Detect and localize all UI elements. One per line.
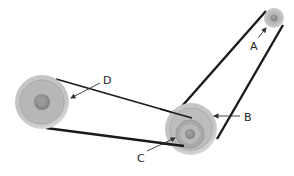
label-c: C <box>137 152 145 165</box>
arrow-a <box>258 28 266 38</box>
label-a: A <box>250 40 258 53</box>
label-d: D <box>103 74 111 87</box>
pulley-a <box>264 8 284 28</box>
pulley-c <box>176 120 204 148</box>
label-b: B <box>244 111 252 124</box>
pulley-d <box>15 75 69 129</box>
belt-pulley-diagram: A D B C <box>0 0 294 176</box>
